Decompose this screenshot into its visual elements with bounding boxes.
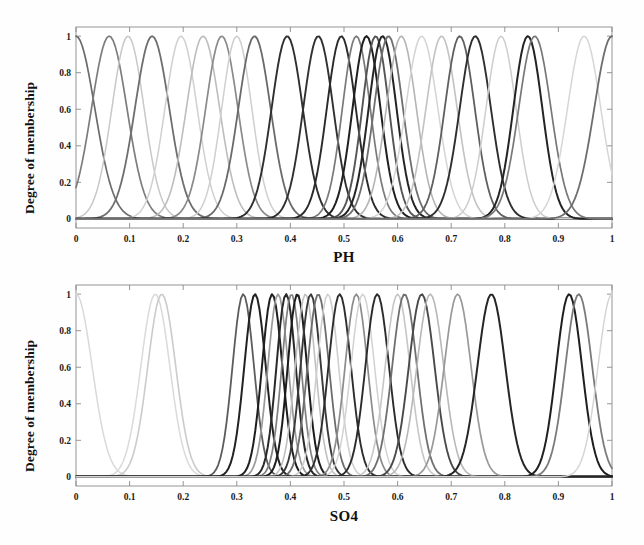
y-tick-label: 1 — [66, 290, 71, 300]
x-tick-label: 0.9 — [552, 234, 564, 244]
x-tick-label: 0.5 — [338, 492, 350, 502]
x-tick-label: 0.7 — [445, 492, 457, 502]
x-tick-label: 0.4 — [284, 492, 296, 502]
ph-y-axis-label: Degree of membership — [22, 82, 38, 214]
x-tick-label: 1 — [610, 234, 615, 244]
x-tick-label: 0.1 — [124, 492, 136, 502]
x-tick-label: 0.4 — [284, 234, 296, 244]
y-tick-label: 0.8 — [59, 326, 71, 336]
chart-panel-ph: 00.10.20.30.40.50.60.70.80.9100.20.40.60… — [0, 0, 644, 273]
ph-plot-svg: 00.10.20.30.40.50.60.70.80.9100.20.40.60… — [0, 0, 644, 273]
plot-frame — [76, 285, 612, 486]
y-tick-label: 0.6 — [59, 105, 71, 115]
y-tick-label: 0.4 — [59, 141, 71, 151]
y-tick-label: 0.4 — [59, 399, 71, 409]
y-tick-label: 0.8 — [59, 68, 71, 78]
x-tick-label: 0 — [74, 492, 79, 502]
y-tick-label: 0 — [66, 472, 71, 482]
so4-y-axis-label: Degree of membership — [22, 340, 38, 472]
y-tick-label: 0.2 — [59, 436, 71, 446]
x-tick-label: 0.5 — [338, 234, 350, 244]
y-tick-label: 0.2 — [59, 178, 71, 188]
y-tick-label: 1 — [66, 32, 71, 42]
ph-x-axis-label: PH — [284, 249, 404, 266]
x-tick-label: 0 — [74, 234, 79, 244]
so4-plot-svg: 00.10.20.30.40.50.60.70.80.9100.20.40.60… — [0, 273, 644, 545]
x-tick-label: 0.6 — [392, 234, 404, 244]
x-tick-label: 0.1 — [124, 234, 136, 244]
y-tick-label: 0.6 — [59, 363, 71, 373]
y-tick-label: 0 — [66, 214, 71, 224]
so4-x-axis-label: SO4 — [284, 508, 404, 525]
x-tick-label: 0.2 — [177, 492, 189, 502]
chart-panel-so4: 00.10.20.30.40.50.60.70.80.9100.20.40.60… — [0, 273, 644, 545]
x-tick-label: 0.3 — [231, 234, 243, 244]
x-tick-label: 0.7 — [445, 234, 457, 244]
x-tick-label: 0.2 — [177, 234, 189, 244]
x-tick-label: 0.3 — [231, 492, 243, 502]
x-tick-label: 0.8 — [499, 492, 511, 502]
x-tick-label: 0.8 — [499, 234, 511, 244]
x-tick-label: 0.6 — [392, 492, 404, 502]
x-tick-label: 0.9 — [552, 492, 564, 502]
x-tick-label: 1 — [610, 492, 615, 502]
figure-canvas: 00.10.20.30.40.50.60.70.80.9100.20.40.60… — [0, 0, 644, 545]
